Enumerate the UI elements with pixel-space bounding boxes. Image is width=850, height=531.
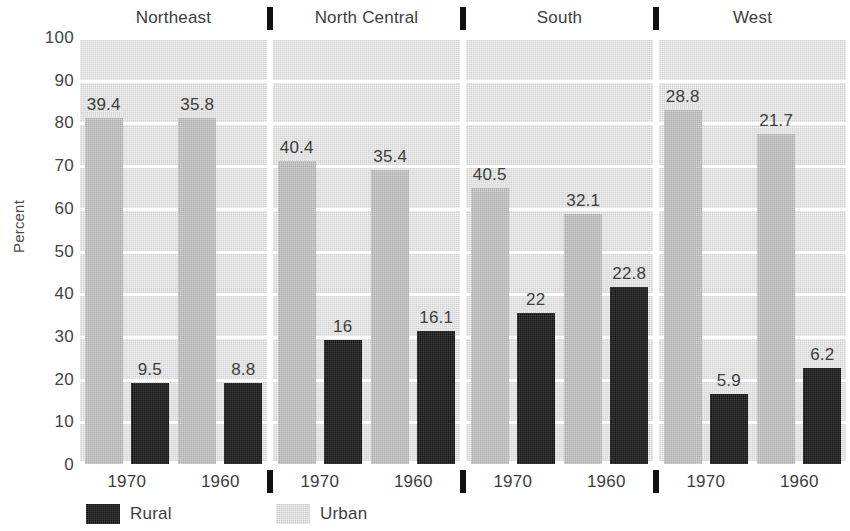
bar-north-central-1970-urban xyxy=(278,161,316,464)
bar-northeast-1960-rural xyxy=(224,383,262,464)
y-axis-tick-labels: 1009080706050403020100 xyxy=(22,0,74,531)
bar-value-label: 35.8 xyxy=(168,96,226,113)
bar-west-1960-urban xyxy=(757,134,795,464)
bar-northeast-1970-rural xyxy=(131,383,169,464)
x-tick-south-1960: 1960 xyxy=(566,472,646,492)
gridline-80 xyxy=(273,122,460,125)
y-tick-label-30: 30 xyxy=(28,328,74,345)
plot-area: 39.49.535.88.840.41635.416.140.52232.122… xyxy=(80,37,846,464)
panel-separator-tick-bottom xyxy=(460,470,466,493)
y-tick-label-100: 100 xyxy=(28,29,74,46)
bar-northeast-1960-urban xyxy=(178,118,216,464)
bar-south-1970-urban xyxy=(471,188,509,464)
panel-west: 28.85.921.76.2 xyxy=(659,37,846,464)
bar-west-1970-rural xyxy=(710,394,748,464)
bar-value-label: 9.5 xyxy=(121,361,179,378)
bar-north-central-1970-rural xyxy=(324,340,362,464)
legend-item-urban[interactable]: Urban xyxy=(276,502,367,526)
bar-value-label: 28.8 xyxy=(654,88,712,105)
gridline-90 xyxy=(273,80,460,83)
legend-swatch-rural-icon xyxy=(86,504,120,524)
x-tick-south-1970: 1970 xyxy=(473,472,553,492)
y-tick-label-70: 70 xyxy=(28,157,74,174)
bar-value-label: 39.4 xyxy=(75,96,133,113)
x-tick-north-central-1960: 1960 xyxy=(373,472,453,492)
bar-value-label: 16 xyxy=(314,318,372,335)
panel-title-north-central: North Central xyxy=(273,8,460,28)
bar-north-central-1960-rural xyxy=(417,331,455,464)
x-tick-northeast-1960: 1960 xyxy=(180,472,260,492)
x-tick-northeast-1970: 1970 xyxy=(87,472,167,492)
bar-west-1960-rural xyxy=(803,368,841,464)
bar-northeast-1970-urban xyxy=(85,118,123,464)
bar-value-label: 32.1 xyxy=(554,192,612,209)
panel-south: 40.52232.122.8 xyxy=(466,37,653,464)
panel-title-northeast: Northeast xyxy=(80,8,267,28)
gridline-100 xyxy=(659,37,846,40)
panel-separator-tick-bottom xyxy=(653,470,659,493)
bar-value-label: 6.2 xyxy=(793,346,850,363)
regional-urban-rural-bar-chart: Percent 1009080706050403020100 Northeast… xyxy=(0,0,850,531)
legend-item-rural[interactable]: Rural xyxy=(86,502,172,526)
gridline-90 xyxy=(659,80,846,83)
gridline-90 xyxy=(466,80,653,83)
y-tick-label-40: 40 xyxy=(28,285,74,302)
bar-value-label: 21.7 xyxy=(747,112,805,129)
gridline-100 xyxy=(273,37,460,40)
bar-north-central-1960-urban xyxy=(371,170,409,464)
bar-west-1970-urban xyxy=(664,110,702,464)
panel-title-west: West xyxy=(659,8,846,28)
bar-value-label: 35.4 xyxy=(361,148,419,165)
bar-value-label: 22.8 xyxy=(600,265,658,282)
bar-south-1960-rural xyxy=(610,287,648,464)
bar-value-label: 5.9 xyxy=(700,372,758,389)
y-tick-label-90: 90 xyxy=(28,72,74,89)
bar-value-label: 40.5 xyxy=(461,166,519,183)
x-tick-west-1960: 1960 xyxy=(759,472,839,492)
panel-separator-tick-bottom xyxy=(267,470,273,493)
x-tick-north-central-1970: 1970 xyxy=(280,472,360,492)
x-tick-west-1970: 1970 xyxy=(666,472,746,492)
gridline-100 xyxy=(466,37,653,40)
bar-south-1970-rural xyxy=(517,313,555,464)
bar-value-label: 40.4 xyxy=(268,139,326,156)
gridline-100 xyxy=(80,37,267,40)
y-tick-label-0: 0 xyxy=(28,456,74,473)
legend-label: Urban xyxy=(320,504,367,524)
panel-title-south: South xyxy=(466,8,653,28)
panel-northeast: 39.49.535.88.8 xyxy=(80,37,267,464)
y-tick-label-80: 80 xyxy=(28,114,74,131)
legend-swatch-urban-icon xyxy=(276,504,310,524)
bar-value-label: 8.8 xyxy=(214,361,272,378)
y-tick-label-50: 50 xyxy=(28,243,74,260)
bar-south-1960-urban xyxy=(564,214,602,464)
bar-value-label: 22 xyxy=(507,291,565,308)
y-tick-label-10: 10 xyxy=(28,413,74,430)
gridline-80 xyxy=(466,122,653,125)
y-tick-label-60: 60 xyxy=(28,200,74,217)
legend-label: Rural xyxy=(130,504,172,524)
y-tick-label-20: 20 xyxy=(28,371,74,388)
bar-value-label: 16.1 xyxy=(407,309,465,326)
panel-north-central: 40.41635.416.1 xyxy=(273,37,460,464)
gridline-90 xyxy=(80,80,267,83)
